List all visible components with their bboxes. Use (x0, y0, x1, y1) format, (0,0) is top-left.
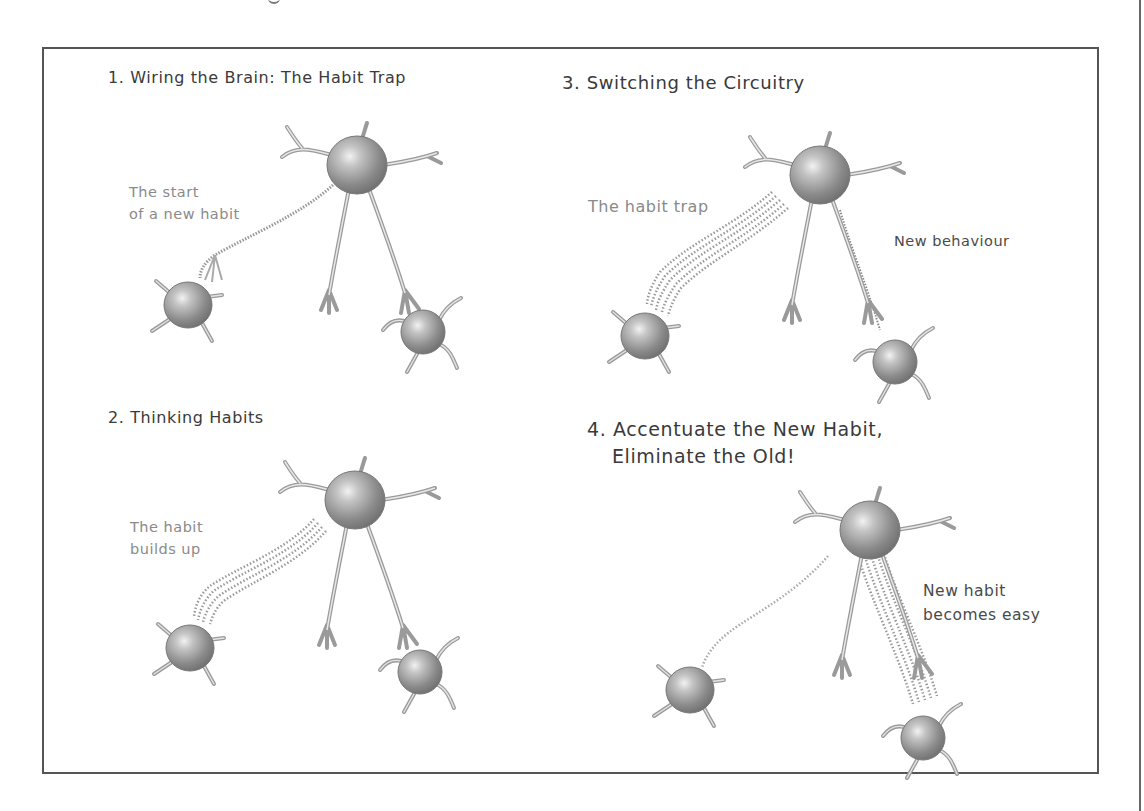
label-line: The habit (130, 516, 203, 538)
neuron-cell-icon (883, 704, 961, 778)
neuron-cell-icon (152, 281, 222, 341)
label-line: New habit (923, 579, 1040, 603)
neuron-cell-icon (383, 298, 461, 372)
panel-2-illustration (154, 458, 458, 712)
neuron-cell-icon (654, 666, 724, 726)
panel-4-illustration (654, 488, 961, 778)
panel-3-title: 3. Switching the Circuitry (562, 72, 805, 93)
panel-1-illustration (152, 123, 461, 372)
panel-4-title-line1: 4. Accentuate the New Habit, (587, 418, 883, 440)
panel-4-title: 4. Accentuate the New Habit, Eliminate t… (587, 416, 883, 470)
neural-pathway-icon (872, 558, 925, 700)
neuron-cell-icon (609, 312, 679, 372)
panel-1-label: The start of a new habit (129, 181, 240, 225)
neuron-illustrations (0, 0, 1144, 811)
panel-1-title: 1. Wiring the Brain: The Habit Trap (108, 68, 406, 87)
label-line: becomes easy (923, 603, 1040, 627)
neuron-cell-icon (282, 123, 441, 313)
panel-3-label-new-behaviour: New behaviour (894, 230, 1010, 252)
panel-3-illustration (609, 133, 933, 402)
neural-pathway-icon (198, 523, 318, 620)
neuron-cell-icon (154, 624, 224, 684)
neuron-cell-icon (380, 638, 458, 712)
panel-3-label-habit-trap: The habit trap (588, 196, 709, 218)
panel-2-label: The habit builds up (130, 516, 203, 560)
neuron-cell-icon (280, 458, 439, 648)
neuron-cell-icon (855, 328, 933, 402)
label-line: builds up (130, 538, 203, 560)
panel-2-title: 2. Thinking Habits (108, 408, 264, 427)
neuron-cell-icon (745, 133, 904, 323)
panel-4-title-line2: Eliminate the Old! (587, 443, 883, 470)
label-line: of a new habit (129, 203, 240, 225)
panel-4-label: New habit becomes easy (923, 579, 1040, 627)
label-line: The start (129, 181, 240, 203)
